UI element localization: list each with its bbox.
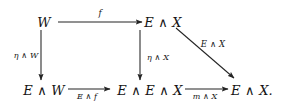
commutative-diagram: W E ∧ X E ∧ W E ∧ E ∧ X E ∧ X. f η ∧ W η…	[0, 0, 286, 106]
edge-label-m-wedge-x: m ∧ X	[193, 93, 218, 101]
node-bottom-right: E ∧ X.	[231, 84, 273, 97]
arrow-diagonal	[176, 28, 234, 78]
edge-label-f: f	[98, 9, 101, 18]
edge-label-e-wedge-x: E ∧ X	[201, 40, 225, 49]
edge-label-eta-wedge-x: η ∧ X	[147, 54, 169, 62]
node-bottom-middle: E ∧ E ∧ X	[117, 84, 183, 97]
edge-label-eta-wedge-w: η ∧ W	[14, 52, 38, 60]
node-bottom-left: E ∧ W	[23, 84, 65, 97]
node-top-left: W	[37, 16, 51, 29]
node-top-right: E ∧ X	[144, 16, 182, 29]
edge-label-e-wedge-f: E ∧ f	[77, 93, 97, 101]
